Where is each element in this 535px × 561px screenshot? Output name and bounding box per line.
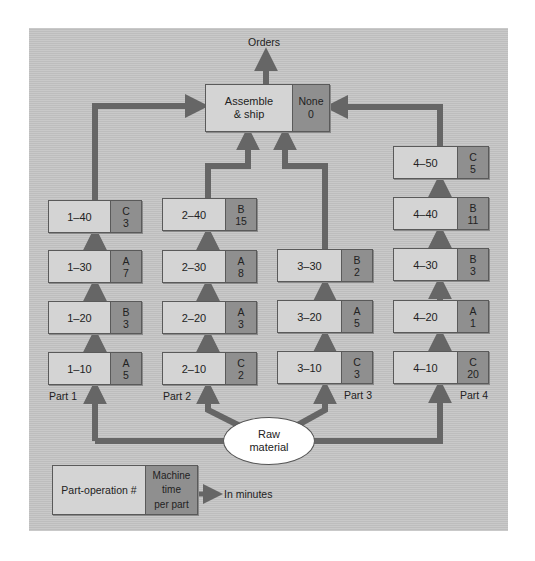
- machine-cell: B3: [110, 302, 141, 333]
- op-box-4-50: 4–50 C5: [393, 146, 489, 179]
- legend-units-label: In minutes: [224, 488, 272, 500]
- machine-cell: B15: [225, 199, 256, 230]
- orders-label: Orders: [248, 36, 280, 48]
- legend-operation-label: Part-operation #: [53, 466, 145, 514]
- machine: A: [353, 305, 360, 317]
- op-box-3-30: 3–30 B2: [277, 249, 373, 282]
- op-box-3-10: 3–10 C3: [277, 351, 373, 384]
- legend-machine-label: Machine: [153, 470, 191, 481]
- machine: A: [469, 305, 476, 317]
- time: 3: [123, 217, 129, 229]
- time: 15: [235, 215, 247, 227]
- op-box-2-20: 2–20 A3: [162, 301, 257, 334]
- op-number: 2–20: [163, 302, 225, 333]
- op-number: 1–10: [49, 353, 110, 384]
- part-1-label: Part 1: [49, 390, 77, 402]
- op-number: 3–30: [278, 250, 341, 281]
- machine: A: [237, 255, 244, 267]
- op-number: 1–30: [49, 251, 110, 282]
- op-number: 4–10: [394, 352, 457, 383]
- op-number: 1–40: [49, 201, 110, 232]
- op-box-4-20: 4–20 A1: [393, 300, 489, 333]
- machine-cell: C3: [341, 352, 372, 383]
- legend-box: Part-operation # Machine time per part: [52, 465, 198, 515]
- machine: B: [353, 254, 360, 266]
- machine-cell: A7: [110, 251, 141, 282]
- assemble-time: 0: [308, 108, 314, 121]
- part-2-label: Part 2: [163, 390, 191, 402]
- op-box-2-40: 2–40 B15: [162, 198, 257, 231]
- machine: C: [122, 205, 130, 217]
- op-box-2-10: 2–10 C2: [162, 352, 257, 385]
- assemble-machine: None: [298, 95, 323, 108]
- machine: C: [237, 357, 245, 369]
- machine-cell: C20: [457, 352, 488, 383]
- op-box-3-20: 3–20 A5: [277, 300, 373, 333]
- legend-time-line-1: time: [162, 484, 181, 495]
- machine-cell: C3: [110, 201, 141, 232]
- time: 7: [123, 267, 129, 279]
- raw-material-ellipse: Raw material: [223, 417, 315, 465]
- op-box-2-30: 2–30 A8: [162, 250, 257, 283]
- time: 11: [468, 214, 479, 226]
- machine: B: [237, 203, 244, 215]
- op-number: 4–40: [394, 198, 457, 229]
- op-box-1-40: 1–40 C3: [48, 200, 142, 233]
- op-box-1-20: 1–20 B3: [48, 301, 142, 334]
- op-number: 2–30: [163, 251, 225, 282]
- time: 3: [354, 368, 360, 380]
- legend-machine-cell: Machine time per part: [145, 466, 197, 514]
- time: 5: [123, 369, 129, 381]
- machine: B: [469, 253, 476, 265]
- assemble-ship-box: Assemble& ship None 0: [205, 84, 330, 132]
- op-number: 3–20: [278, 301, 341, 332]
- assemble-line-2: & ship: [225, 108, 273, 121]
- op-number: 2–10: [163, 353, 225, 384]
- machine: A: [122, 357, 129, 369]
- assemble-machine-cell: None 0: [292, 85, 329, 131]
- machine-cell: A8: [225, 251, 256, 282]
- op-number: 4–50: [394, 147, 457, 178]
- machine: B: [469, 202, 476, 214]
- machine: B: [122, 306, 129, 318]
- assemble-operation: Assemble& ship: [206, 85, 292, 131]
- op-number: 4–20: [394, 301, 457, 332]
- op-number: 3–10: [278, 352, 341, 383]
- machine-cell: B2: [341, 250, 372, 281]
- time: 8: [238, 267, 244, 279]
- machine: C: [353, 356, 361, 368]
- machine: A: [122, 255, 129, 267]
- legend-time-line-2: per part: [154, 499, 188, 510]
- time: 3: [470, 265, 476, 277]
- op-number: 1–20: [49, 302, 110, 333]
- op-box-1-30: 1–30 A7: [48, 250, 142, 283]
- time: 5: [354, 317, 360, 329]
- op-box-4-40: 4–40 B11: [393, 197, 489, 230]
- time: 3: [238, 318, 244, 330]
- machine-cell: C5: [457, 147, 488, 178]
- part-4-label: Part 4: [460, 389, 488, 401]
- part-3-label: Part 3: [344, 389, 372, 401]
- op-box-4-30: 4–30 B3: [393, 248, 489, 281]
- assemble-line-1: Assemble: [225, 95, 273, 108]
- time: 2: [354, 266, 360, 278]
- machine: C: [469, 151, 477, 163]
- time: 5: [470, 163, 476, 175]
- machine-cell: A3: [225, 302, 256, 333]
- machine: C: [469, 356, 477, 368]
- op-number: 4–30: [394, 249, 457, 280]
- machine-cell: C2: [225, 353, 256, 384]
- op-box-4-10: 4–10 C20: [393, 351, 489, 384]
- raw-line-2: material: [249, 441, 288, 454]
- time: 2: [238, 369, 244, 381]
- machine: A: [237, 306, 244, 318]
- time: 20: [467, 368, 479, 380]
- raw-line-1: Raw: [258, 428, 280, 441]
- time: 3: [123, 318, 129, 330]
- op-number: 2–40: [163, 199, 225, 230]
- machine-cell: A5: [341, 301, 372, 332]
- machine-cell: A5: [110, 353, 141, 384]
- machine-cell: B11: [457, 198, 488, 229]
- machine-cell: B3: [457, 249, 488, 280]
- time: 1: [470, 317, 476, 329]
